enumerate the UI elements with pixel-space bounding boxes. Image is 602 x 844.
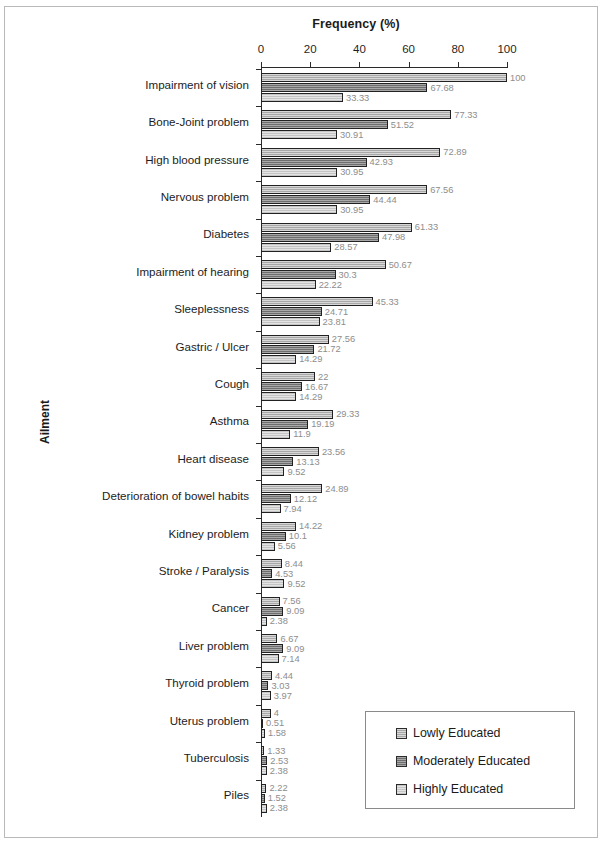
bar-value-label: 24.89	[325, 484, 348, 494]
y-category-label: Stroke / Paralysis	[159, 563, 249, 576]
bar-value-label: 3.03	[271, 681, 289, 691]
bar-value-label: 77.33	[454, 110, 477, 120]
chart-legend: Lowly EducatedModerately EducatedHighly …	[365, 711, 575, 809]
bar-0	[261, 559, 282, 568]
bar-2	[261, 766, 267, 775]
bar-0	[261, 110, 451, 119]
bar-1	[261, 345, 314, 354]
bar-value-label: 2.38	[270, 803, 288, 813]
bar-value-label: 72.89	[443, 147, 466, 157]
bar-0	[261, 784, 266, 793]
bar-value-label: 2.38	[270, 766, 288, 776]
bar-1	[261, 83, 427, 92]
bar-2	[261, 617, 267, 626]
chart-axis-title-x: Frequency (%)	[5, 17, 597, 31]
bar-value-label: 8.44	[285, 559, 303, 569]
bar-2	[261, 355, 296, 364]
x-tick-label-5: 100	[497, 43, 516, 55]
bar-group: 14.2210.15.56	[261, 522, 507, 551]
bar-0	[261, 634, 277, 643]
bar-value-label: 14.22	[299, 521, 322, 531]
bar-group: 24.8912.127.94	[261, 484, 507, 513]
legend-swatch-icon	[396, 756, 407, 767]
bar-group: 7.569.092.38	[261, 597, 507, 626]
bar-group: 67.5644.4430.95	[261, 185, 507, 214]
bar-value-label: 22	[318, 372, 328, 382]
bar-value-label: 3.97	[274, 691, 292, 701]
bar-2	[261, 467, 284, 476]
bar-value-label: 22.22	[319, 280, 342, 290]
y-category-label: Gastric / Ulcer	[176, 339, 249, 352]
bar-2	[261, 130, 337, 139]
bar-value-label: 14.29	[299, 392, 322, 402]
x-tick-mark-5	[507, 62, 508, 68]
bar-1	[261, 307, 322, 316]
bar-group: 27.5621.7214.29	[261, 335, 507, 364]
bar-1	[261, 420, 308, 429]
y-axis-category-labels: Impairment of visionBone-Joint problemHi…	[45, 69, 255, 817]
bar-2	[261, 542, 275, 551]
bar-value-label: 30.91	[340, 130, 363, 140]
bar-group: 2216.6714.29	[261, 372, 507, 401]
bar-0	[261, 597, 280, 606]
bar-1	[261, 794, 265, 803]
bar-value-label: 4	[274, 708, 279, 718]
bar-0	[261, 260, 386, 269]
bar-1	[261, 644, 283, 653]
y-category-label: Heart disease	[177, 451, 249, 464]
bar-value-label: 42.93	[370, 157, 393, 167]
bar-1	[261, 382, 302, 391]
bar-1	[261, 719, 263, 728]
legend-label: Lowly Educated	[413, 726, 500, 740]
bar-value-label: 30.3	[339, 270, 357, 280]
bar-value-label: 100	[510, 73, 526, 83]
y-category-label: Cancer	[212, 601, 249, 614]
bar-value-label: 67.68	[430, 83, 453, 93]
bar-value-label: 45.33	[376, 297, 399, 307]
bar-value-label: 7.14	[282, 654, 300, 664]
y-category-label: Nervous problem	[161, 189, 249, 202]
bar-group: 45.3324.7123.81	[261, 297, 507, 326]
bar-1	[261, 120, 388, 129]
y-category-label: High blood pressure	[145, 152, 249, 165]
bar-group: 10067.6833.33	[261, 73, 507, 102]
bar-value-label: 50.67	[389, 260, 412, 270]
y-category-label: Liver problem	[179, 638, 249, 651]
y-category-label: Kidney problem	[168, 526, 249, 539]
bar-0	[261, 73, 507, 82]
bar-value-label: 24.71	[325, 307, 348, 317]
bar-value-label: 47.98	[382, 232, 405, 242]
bar-2	[261, 654, 279, 663]
legend-swatch-icon	[396, 784, 407, 795]
bar-2	[261, 729, 265, 738]
bar-value-label: 2.38	[270, 616, 288, 626]
bar-value-label: 4.44	[275, 671, 293, 681]
y-category-label: Cough	[215, 376, 249, 389]
bar-value-label: 11.9	[293, 429, 310, 439]
bar-value-label: 33.33	[346, 93, 369, 103]
bar-value-label: 7.94	[284, 504, 302, 514]
x-tick-label-4: 80	[451, 43, 464, 55]
bar-1	[261, 233, 379, 242]
bar-0	[261, 335, 329, 344]
bar-value-label: 10.1	[289, 531, 307, 541]
bar-value-label: 9.09	[286, 644, 304, 654]
bar-value-label: 27.56	[332, 334, 355, 344]
y-category-label: Thyroid problem	[165, 676, 249, 689]
legend-label: Moderately Educated	[413, 754, 530, 768]
x-axis-line	[261, 67, 507, 68]
legend-item: Highly Educated	[396, 782, 503, 796]
chart-axis-title-y: Ailment	[38, 400, 52, 444]
bar-value-label: 9.52	[287, 467, 305, 477]
bar-0	[261, 709, 271, 718]
bar-0	[261, 746, 264, 755]
x-axis-tick-labels: 020406080100	[261, 43, 507, 61]
x-tick-label-2: 40	[353, 43, 366, 55]
bar-1	[261, 158, 367, 167]
bar-value-label: 7.56	[283, 596, 301, 606]
bar-1	[261, 607, 283, 616]
bar-2	[261, 93, 343, 102]
bar-0	[261, 671, 272, 680]
bar-value-label: 16.67	[305, 382, 328, 392]
y-category-label: Tuberculosis	[184, 750, 249, 763]
